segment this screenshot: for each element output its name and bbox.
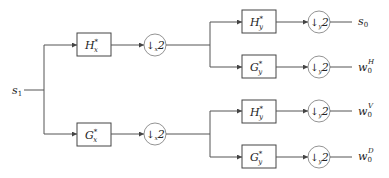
downsample-x-top: ↓x2 bbox=[144, 34, 166, 56]
filter-hy-row2: H*y bbox=[242, 100, 276, 123]
svg-text:H*y: H*y bbox=[249, 105, 264, 121]
input-label-s1: s1 bbox=[12, 84, 22, 98]
filter-hy-row0: H*y bbox=[242, 10, 276, 33]
svg-text:H*x: H*x bbox=[84, 38, 99, 54]
svg-text:H*y: H*y bbox=[249, 15, 264, 31]
output-w0D: w0D bbox=[358, 147, 374, 164]
svg-text:G*y: G*y bbox=[250, 150, 263, 166]
downsample-x-bottom: ↓x2 bbox=[144, 123, 166, 145]
filter-bank-diagram: s1 H*x ↓x2 G*x ↓x2 H*y ↓y2 s0 G*y bbox=[0, 0, 389, 178]
downsample-y-row3: ↓y2 bbox=[308, 146, 330, 168]
svg-text:G*x: G*x bbox=[85, 128, 98, 144]
filter-gy-row1: G*y bbox=[242, 55, 276, 78]
output-w0H: w0H bbox=[358, 58, 375, 75]
filter-gx: G*x bbox=[77, 123, 111, 146]
downsample-y-row2: ↓y2 bbox=[308, 100, 330, 122]
downsample-y-row1: ↓y2 bbox=[308, 56, 330, 78]
svg-text:G*y: G*y bbox=[250, 60, 263, 76]
downsample-y-row0: ↓y2 bbox=[308, 11, 330, 33]
output-w0V: w0V bbox=[358, 102, 374, 119]
filter-gy-row3: G*y bbox=[242, 145, 276, 168]
filter-hx: H*x bbox=[77, 33, 111, 56]
output-s0: s0 bbox=[358, 15, 368, 29]
